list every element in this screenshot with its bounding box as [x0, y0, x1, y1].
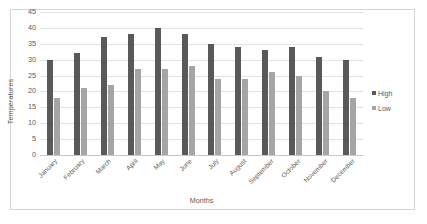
bar-low-august — [242, 79, 248, 155]
x-axis-tick-labels: JanuaryFebruaryMarchAprilMayJuneJulyAugu… — [40, 155, 363, 199]
x-axis-tick-label: January — [38, 158, 59, 179]
bar-group — [175, 12, 202, 155]
bar-group — [282, 12, 309, 155]
bar-high-april — [128, 34, 134, 155]
y-axis-tick-35: 35 — [19, 40, 36, 47]
x-axis-tick-label: March — [95, 158, 113, 176]
y-axis-tick-25: 25 — [19, 72, 36, 79]
bar-group — [255, 12, 282, 155]
bar-low-november — [323, 91, 329, 155]
bar-high-january — [47, 60, 53, 155]
bar-high-june — [182, 34, 188, 155]
bar-low-october — [296, 76, 302, 155]
y-axis-tick-0: 0 — [19, 151, 36, 158]
x-axis-tick-label: October — [280, 158, 301, 179]
bar-group — [94, 12, 121, 155]
x-axis-tick-label: April — [126, 158, 140, 172]
x-axis-tick-label: August — [228, 158, 247, 177]
bar-group — [148, 12, 175, 155]
plot-area — [40, 12, 363, 155]
legend-swatch-icon — [372, 91, 376, 95]
x-axis-tick-label: May — [153, 158, 166, 171]
bar-high-february — [74, 53, 80, 155]
legend-swatch-icon — [372, 106, 376, 110]
x-axis-tick-label: June — [179, 158, 194, 173]
bar-high-october — [289, 47, 295, 155]
x-axis-tick-april: April — [121, 155, 148, 199]
bar-low-may — [162, 69, 168, 155]
x-axis-tick-july: July — [202, 155, 229, 199]
bar-high-september — [262, 50, 268, 155]
x-axis-tick-december: December — [336, 155, 363, 199]
y-axis-title-label: Temperatures — [7, 78, 16, 124]
bar-low-january — [54, 98, 60, 155]
bar-high-december — [343, 60, 349, 155]
y-axis-title: Temperatures — [5, 58, 17, 144]
y-axis-tick-45: 45 — [19, 8, 36, 15]
bar-group — [40, 12, 67, 155]
bar-low-february — [81, 88, 87, 155]
y-axis-tick-40: 40 — [19, 24, 36, 31]
legend-entry-high[interactable]: High — [372, 89, 420, 97]
legend-entry-low[interactable]: Low — [372, 104, 420, 112]
bar-group — [202, 12, 229, 155]
bar-high-may — [155, 28, 161, 155]
bar-low-december — [350, 98, 356, 155]
bar-group — [336, 12, 363, 155]
y-axis-tick-20: 20 — [19, 88, 36, 95]
y-axis-tick-5: 5 — [19, 136, 36, 143]
x-axis-title: Months — [40, 196, 363, 205]
bar-low-july — [215, 79, 221, 155]
y-axis-tick-15: 15 — [19, 104, 36, 111]
x-axis-tick-september: September — [255, 155, 282, 199]
y-axis-tick-30: 30 — [19, 56, 36, 63]
bars-layer — [40, 12, 363, 155]
bar-low-june — [189, 66, 195, 155]
x-axis-tick-march: March — [94, 155, 121, 199]
legend-label: Low — [378, 105, 391, 112]
x-axis-tick-label: July — [207, 158, 220, 171]
bar-group — [228, 12, 255, 155]
bar-group — [67, 12, 94, 155]
y-axis-tick-labels: 051015202530354045 — [19, 12, 36, 155]
bar-group — [121, 12, 148, 155]
bar-low-april — [135, 69, 141, 155]
bar-high-november — [316, 57, 322, 156]
x-axis-tick-label: February — [63, 158, 86, 181]
x-axis-tick-february: February — [67, 155, 94, 199]
bar-high-march — [101, 37, 107, 155]
bar-high-july — [208, 44, 214, 155]
bar-low-march — [108, 85, 114, 155]
x-axis-tick-may: May — [148, 155, 175, 199]
chart-legend: HighLow — [372, 89, 420, 119]
x-axis-tick-june: June — [175, 155, 202, 199]
y-axis-tick-10: 10 — [19, 120, 36, 127]
bar-high-august — [235, 47, 241, 155]
legend-label: High — [378, 90, 392, 97]
bar-group — [309, 12, 336, 155]
bar-low-september — [269, 72, 275, 155]
